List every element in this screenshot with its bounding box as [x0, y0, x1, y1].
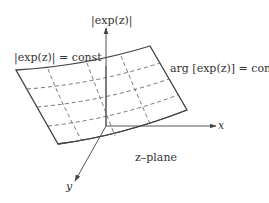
- exp-surface-diagram: [0, 0, 269, 203]
- y-axis-label: y: [66, 181, 72, 192]
- plane-label: z–plane: [135, 152, 177, 163]
- modulus-curve-label: |exp(z)| = const: [14, 52, 102, 63]
- z-axis-label: |exp(z)|: [91, 15, 133, 26]
- argument-curve-label: arg [exp(z)] = const: [170, 63, 269, 74]
- x-axis-label: x: [218, 120, 224, 131]
